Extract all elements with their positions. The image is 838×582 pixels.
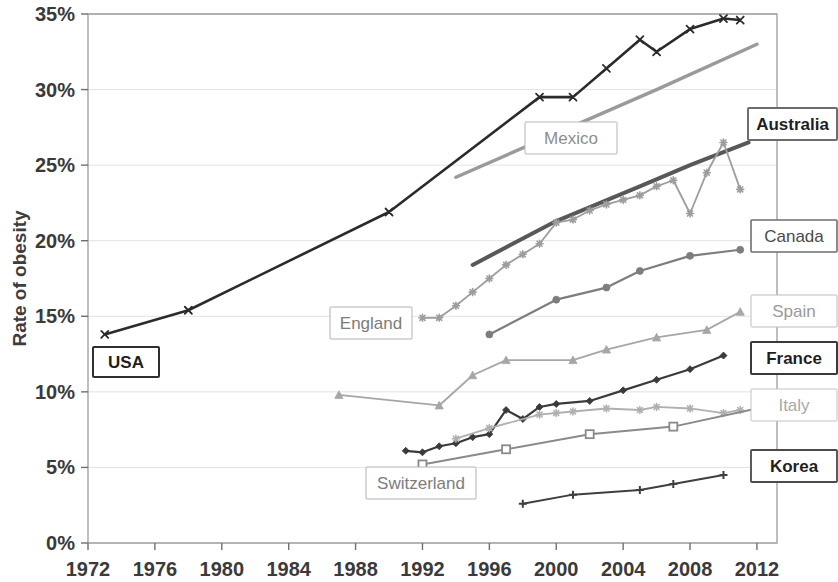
- callout-england[interactable]: England: [330, 307, 412, 339]
- data-point-marker: [586, 397, 593, 404]
- data-point-marker: [720, 352, 727, 359]
- y-axis-tick-labels: 0%5%10%15%20%25%30%35%: [35, 3, 75, 554]
- data-point-marker: [669, 423, 677, 431]
- y-tick-label: 10%: [35, 381, 75, 403]
- data-point-marker: [737, 186, 744, 193]
- data-point-marker: [553, 219, 560, 226]
- data-point-marker: [636, 406, 643, 413]
- data-point-marker: [737, 246, 744, 253]
- data-point-marker: [620, 387, 627, 394]
- data-point-marker: [452, 302, 459, 309]
- callout-france[interactable]: France: [751, 342, 837, 374]
- obesity-rate-line-chart: 0%5%10%15%20%25%30%35% 19721976198019841…: [0, 0, 838, 582]
- data-point-marker: [603, 284, 610, 291]
- data-point-marker: [569, 491, 577, 499]
- y-tick-label: 5%: [46, 456, 75, 478]
- plot-border: [88, 14, 777, 543]
- data-point-marker: [436, 314, 443, 321]
- y-tick-label: 0%: [46, 532, 75, 554]
- data-point-marker: [669, 480, 677, 488]
- callout-italy[interactable]: Italy: [751, 389, 837, 421]
- data-point-marker: [436, 443, 443, 450]
- data-point-marker: [720, 139, 727, 146]
- callout-label: Italy: [778, 396, 810, 415]
- callout-label: Mexico: [544, 129, 598, 148]
- x-tick-label: 2004: [601, 558, 646, 580]
- data-point-marker: [653, 48, 660, 55]
- callout-label: Canada: [764, 227, 824, 246]
- x-tick-label: 1984: [266, 558, 311, 580]
- data-point-marker: [636, 192, 643, 199]
- callout-switzerland[interactable]: Switzerland: [366, 467, 476, 499]
- data-point-marker: [586, 207, 593, 214]
- data-point-marker: [687, 210, 694, 217]
- y-tick-label: 20%: [35, 230, 75, 252]
- data-point-marker: [553, 296, 560, 303]
- y-tick-label: 35%: [35, 3, 75, 25]
- y-tick-label: 25%: [35, 154, 75, 176]
- data-point-marker: [586, 430, 594, 438]
- series-france: [402, 352, 727, 456]
- y-axis-title: Rate of obesity: [9, 210, 30, 347]
- series-line: [523, 475, 724, 504]
- callout-canada[interactable]: Canada: [751, 220, 837, 252]
- callout-korea[interactable]: Korea: [751, 450, 837, 482]
- data-point-marker: [653, 403, 660, 410]
- data-point-marker: [687, 252, 694, 259]
- data-point-marker: [636, 486, 644, 494]
- data-point-marker: [536, 240, 543, 247]
- series-korea: [519, 471, 728, 508]
- data-point-marker: [553, 400, 560, 407]
- data-point-marker: [719, 471, 727, 479]
- data-point-marker: [603, 405, 610, 412]
- data-point-marker: [569, 408, 576, 415]
- callout-label: France: [766, 349, 822, 368]
- callout-spain[interactable]: Spain: [751, 295, 837, 327]
- x-tick-label: 1980: [200, 558, 245, 580]
- callout-label: Spain: [772, 302, 815, 321]
- callout-label: Switzerland: [377, 474, 465, 493]
- y-tick-label: 15%: [35, 305, 75, 327]
- y-axis-title: Rate of obesity: [9, 210, 30, 347]
- series-line: [105, 19, 740, 335]
- x-axis-tick-labels: 1972197619801984198819921996200020042008…: [66, 558, 779, 580]
- data-point-marker: [620, 196, 627, 203]
- data-point-marker: [502, 445, 510, 453]
- data-point-marker: [603, 65, 610, 72]
- callout-australia[interactable]: Australia: [748, 108, 837, 140]
- series-usa: [101, 15, 743, 338]
- callout-mexico[interactable]: Mexico: [525, 122, 617, 154]
- x-tick-label: 1988: [333, 558, 378, 580]
- data-point-marker: [486, 331, 493, 338]
- data-point-marker: [519, 500, 527, 508]
- callout-label: Korea: [770, 457, 819, 476]
- data-point-marker: [402, 447, 409, 454]
- data-point-marker: [469, 371, 477, 379]
- series-canada: [486, 246, 744, 338]
- data-point-marker: [536, 411, 543, 418]
- data-series-group: [101, 15, 761, 508]
- data-point-marker: [553, 410, 560, 417]
- y-tick-label: 30%: [35, 79, 75, 101]
- data-point-marker: [486, 275, 493, 282]
- data-point-marker: [703, 169, 710, 176]
- chart-canvas: 0%5%10%15%20%25%30%35% 19721976198019841…: [0, 0, 838, 582]
- data-point-marker: [636, 36, 643, 43]
- x-tick-label: 1972: [66, 558, 111, 580]
- data-point-marker: [670, 177, 677, 184]
- callout-usa[interactable]: USA: [93, 347, 159, 377]
- data-point-marker: [419, 314, 426, 321]
- data-point-marker: [519, 251, 526, 258]
- x-tick-label: 2012: [735, 558, 780, 580]
- data-point-marker: [486, 425, 493, 432]
- callout-label: USA: [108, 353, 144, 372]
- data-point-marker: [636, 267, 643, 274]
- x-tick-label: 2008: [668, 558, 713, 580]
- data-point-marker: [503, 261, 510, 268]
- data-point-marker: [653, 376, 660, 383]
- data-point-marker: [469, 289, 476, 296]
- x-tick-label: 1992: [400, 558, 445, 580]
- data-point-marker: [687, 366, 694, 373]
- series-line: [489, 250, 740, 335]
- data-point-marker: [452, 435, 459, 442]
